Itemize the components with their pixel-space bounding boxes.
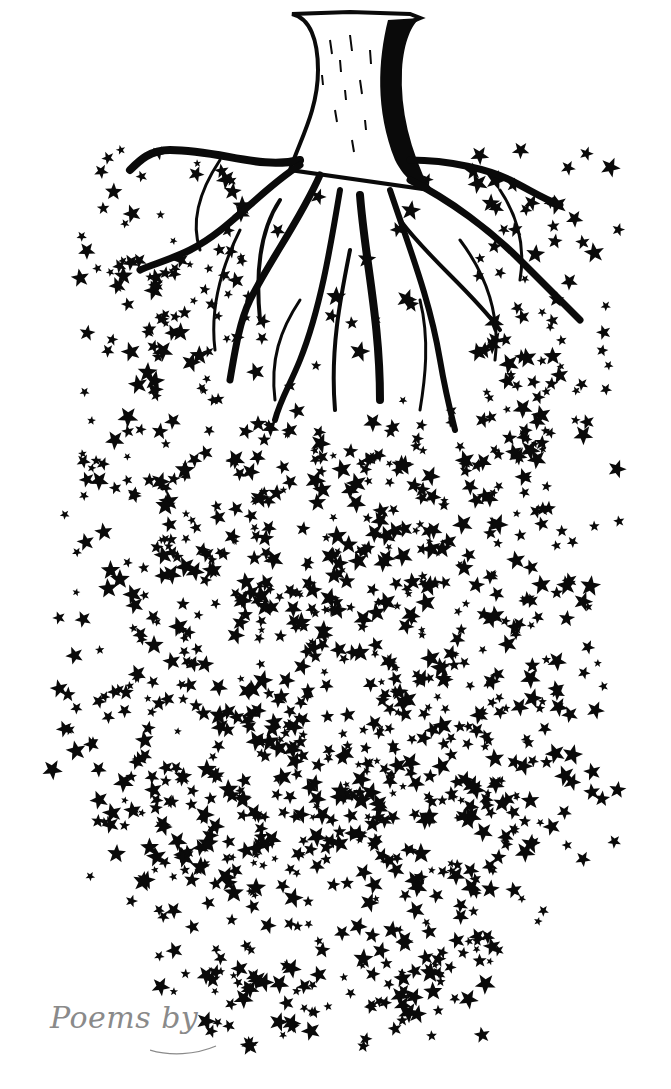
- leaf: [291, 655, 313, 677]
- leaf: [70, 545, 83, 558]
- leaf: [457, 654, 473, 670]
- leaf: [309, 756, 326, 773]
- leaf: [388, 788, 399, 799]
- leaf: [72, 607, 95, 630]
- leaf: [363, 964, 382, 982]
- leaf: [212, 241, 229, 259]
- leaf: [100, 149, 118, 167]
- leaf: [77, 489, 91, 502]
- leaf: [243, 896, 263, 916]
- leaf: [579, 637, 598, 655]
- leaf: [180, 674, 201, 695]
- leaf: [560, 838, 575, 853]
- leaf: [608, 780, 627, 799]
- leaf: [611, 221, 627, 237]
- leaf: [491, 702, 510, 721]
- leaf: [328, 511, 340, 523]
- leaf: [602, 359, 615, 372]
- leaf: [339, 971, 350, 983]
- leaf: [93, 520, 117, 544]
- leaf: [348, 339, 373, 363]
- leaf: [209, 736, 228, 755]
- leaf: [536, 306, 549, 318]
- cover-illustration: Poems by: [0, 0, 671, 1089]
- leaf: [397, 394, 409, 406]
- leaf: [477, 643, 489, 655]
- leaf: [159, 774, 172, 786]
- leaf: [515, 344, 541, 371]
- leaf: [338, 704, 359, 725]
- leaf: [178, 693, 189, 704]
- leaf: [519, 788, 542, 812]
- leaf: [87, 415, 97, 425]
- leaf: [370, 940, 391, 961]
- leaf: [77, 448, 88, 460]
- leaf: [536, 719, 555, 738]
- leaf: [244, 358, 269, 383]
- leaf: [612, 514, 627, 529]
- leaf: [209, 942, 223, 956]
- leaf: [546, 218, 562, 235]
- leaf: [579, 574, 602, 596]
- leaf: [404, 897, 430, 923]
- caption-poems-by: Poems by: [50, 1000, 198, 1035]
- leaf: [122, 451, 133, 462]
- leaf: [118, 338, 145, 365]
- leaf: [467, 904, 480, 918]
- leaf: [447, 628, 469, 649]
- leaf: [235, 770, 256, 791]
- leaf: [379, 955, 395, 971]
- leaf: [393, 602, 402, 610]
- leaf: [359, 741, 373, 755]
- leaf: [574, 232, 593, 251]
- leaf: [203, 790, 220, 807]
- leaf: [201, 372, 214, 385]
- leaf: [605, 832, 624, 851]
- leaf: [446, 858, 456, 868]
- leaf: [88, 757, 110, 779]
- leaf: [410, 430, 426, 445]
- leaf: [509, 138, 533, 162]
- leaf: [144, 635, 163, 653]
- leaf: [513, 527, 529, 543]
- leaf: [287, 399, 310, 422]
- leaf: [295, 520, 311, 535]
- leaf: [530, 608, 548, 626]
- leaf: [390, 541, 418, 569]
- leaf: [210, 986, 221, 997]
- leaf: [456, 985, 483, 1011]
- leaf: [459, 474, 482, 497]
- leaf: [581, 759, 605, 783]
- leaf: [247, 445, 269, 467]
- leaf: [451, 894, 472, 915]
- leaf: [414, 418, 428, 432]
- leaf: [501, 429, 518, 445]
- leaf: [203, 262, 216, 275]
- leaf: [281, 885, 306, 909]
- leaf: [81, 733, 103, 755]
- leaf: [584, 698, 608, 721]
- leaf: [72, 587, 82, 596]
- leaf: [594, 322, 614, 342]
- leaf: [236, 422, 255, 440]
- leaf: [593, 659, 602, 667]
- leaf: [220, 832, 239, 851]
- leaf: [281, 786, 300, 805]
- leaf: [202, 423, 217, 438]
- leaf: [168, 870, 180, 882]
- leaf: [521, 556, 543, 578]
- leaf: [259, 516, 280, 537]
- leaf: [317, 675, 336, 694]
- leaf: [394, 285, 420, 311]
- leaf: [75, 229, 89, 243]
- leaf: [108, 479, 125, 496]
- leaf: [331, 921, 353, 943]
- leaf: [337, 727, 350, 740]
- leaf: [525, 243, 546, 263]
- leaf: [180, 968, 191, 978]
- leaf: [106, 843, 126, 862]
- leaf: [39, 755, 66, 782]
- leaf: [140, 719, 157, 735]
- leaf: [504, 547, 529, 573]
- leaf: [383, 475, 397, 489]
